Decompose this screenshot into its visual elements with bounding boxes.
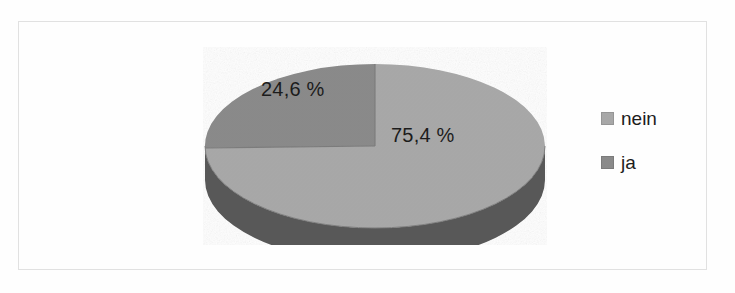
data-label-ja: 24,6 % [261,78,324,101]
legend-label-nein: nein [621,109,657,128]
data-label-nein: 75,4 % [391,124,454,147]
chart-legend: nein ja [601,103,697,191]
legend-label-ja: ja [621,153,636,172]
legend-item-nein[interactable]: nein [601,103,697,133]
legend-swatch-nein [601,112,614,125]
legend-swatch-ja [601,156,614,169]
pie-chart[interactable] [203,47,547,245]
pie-slice-ja[interactable] [205,64,375,148]
chart-plot-area: 24,6 % 75,4 % nein ja [0,0,735,293]
pie-chart-svg [203,47,547,245]
legend-item-ja[interactable]: ja [601,147,697,177]
